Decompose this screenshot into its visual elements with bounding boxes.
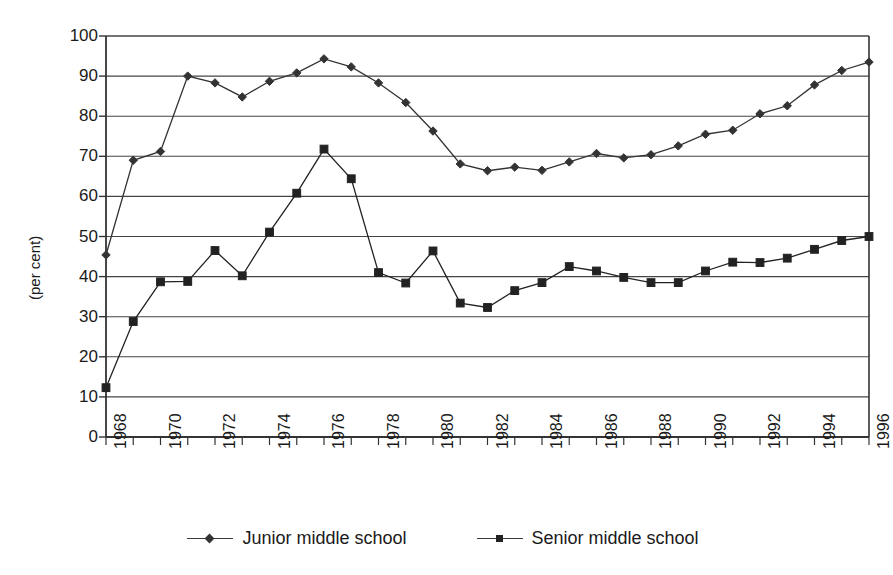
legend-label: Senior middle school (532, 528, 699, 549)
x-axis-tick-label: 1992 (766, 413, 784, 449)
legend-item-junior[interactable]: Junior middle school (187, 528, 406, 549)
x-axis-tick-label: 1978 (385, 413, 403, 449)
x-axis-tick-label: 1986 (603, 413, 621, 449)
x-axis-tick-label: 1984 (548, 413, 566, 449)
x-axis-tick-label: 1972 (221, 413, 239, 449)
x-axis-tick-label: 1968 (112, 413, 130, 449)
chart-legend: Junior middle schoolSenior middle school (0, 528, 886, 549)
legend-item-senior[interactable]: Senior middle school (477, 528, 699, 549)
x-axis-tick-label: 1980 (439, 413, 457, 449)
diamond-marker-icon (187, 532, 233, 546)
legend-label: Junior middle school (242, 528, 406, 549)
x-axis-tick-label: 1988 (657, 413, 675, 449)
x-axis-tick-label: 1976 (330, 413, 348, 449)
x-axis-tick-label: 1982 (494, 413, 512, 449)
x-axis-tick-label: 1990 (712, 413, 730, 449)
x-axis-tick-label: 1994 (821, 413, 839, 449)
x-axis-tick-label: 1970 (167, 413, 185, 449)
x-axis-tick-label: 1996 (875, 413, 893, 449)
x-axis-tick-label: 1974 (276, 413, 294, 449)
square-marker-icon (477, 532, 523, 546)
